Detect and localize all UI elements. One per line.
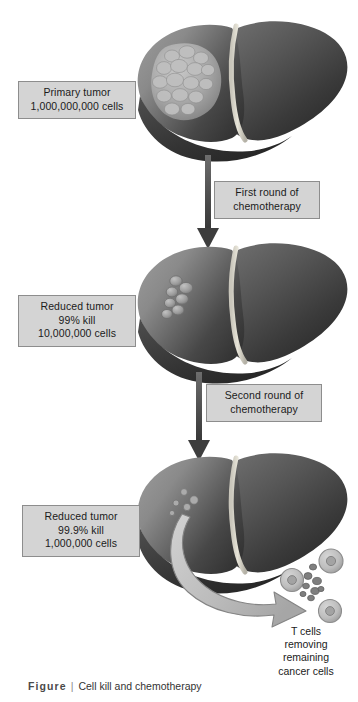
figure-caption-title: Cell kill and chemotherapy [78,680,201,692]
label-first-round-chemotherapy: First round of chemotherapy [214,181,320,219]
label-tcell-note: T cells removing remaining cancer cells [256,625,356,678]
liver-stage-1-primary-tumor [138,21,348,161]
label-reduced-tumor-1-line1: Reduced tumor [25,300,129,314]
t-cell [281,569,304,592]
label-reduced-tumor-1: Reduced tumor 99% kill 10,000,000 cells [18,295,136,347]
label-tcell-note-line4: cancer cells [256,665,356,678]
figure-caption-separator: | [71,679,74,693]
figure-cell-kill-and-chemotherapy: Primary tumor 1,000,000,000 cells Reduce… [0,0,358,702]
label-tcell-note-line1: T cells [256,625,356,638]
t-cell [319,549,343,573]
liver-stage-3-reduced-tumor [138,453,348,593]
label-second-round-line1: Second round of [213,389,315,403]
label-reduced-tumor-1-line3: 10,000,000 cells [25,327,129,341]
label-primary-tumor-line2: 1,000,000,000 cells [25,100,129,114]
label-second-round-chemotherapy: Second round of chemotherapy [206,384,322,422]
label-reduced-tumor-2: Reduced tumor 99.9% kill 1,000,000 cells [22,505,140,557]
label-reduced-tumor-2-line3: 1,000,000 cells [29,537,133,551]
label-reduced-tumor-2-line1: Reduced tumor [29,510,133,524]
label-reduced-tumor-2-line2: 99.9% kill [29,524,133,538]
figure-caption-word: Figure [28,680,67,692]
label-reduced-tumor-1-line2: 99% kill [25,314,129,328]
label-primary-tumor-line1: Primary tumor [25,86,129,100]
t-cell [319,600,342,623]
liver-stage-2-reduced-tumor [138,243,348,383]
illustration-stage: Primary tumor 1,000,000,000 cells Reduce… [0,0,358,668]
label-first-round-line2: chemotherapy [221,200,313,214]
label-second-round-line2: chemotherapy [213,403,315,417]
figure-caption: Figure|Cell kill and chemotherapy [28,679,202,693]
label-tcell-note-line2: removing [256,638,356,651]
label-primary-tumor: Primary tumor 1,000,000,000 cells [18,81,136,119]
primary-tumor-mass [151,43,221,120]
label-first-round-line1: First round of [221,186,313,200]
label-tcell-note-line3: remaining [256,651,356,664]
